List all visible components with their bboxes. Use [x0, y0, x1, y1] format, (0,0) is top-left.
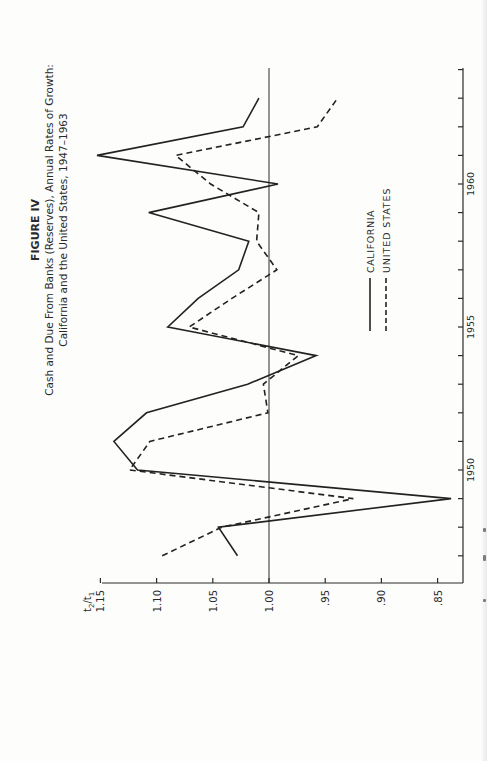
legend-united-states-label: UNITED STATES	[381, 188, 392, 273]
year-axis-ticks: 195019551960	[458, 70, 476, 556]
year-tick-label: 1955	[465, 315, 476, 339]
year-tick-label: 1950	[465, 458, 476, 482]
value-tick-label: 1.10	[152, 590, 163, 612]
california-series-line	[97, 98, 451, 556]
value-tick-label: .90	[376, 590, 387, 606]
value-tick-label: 1.15	[95, 590, 106, 612]
value-tick-label: .85	[433, 590, 444, 606]
figure-label: FIGURE IV	[29, 199, 42, 261]
svg-text:t2/t1: t2/t1	[82, 592, 96, 612]
legend-california-label: CALIFORNIA	[365, 210, 376, 273]
value-tick-label: 1.00	[264, 590, 275, 612]
axes	[102, 68, 463, 583]
value-tick-label: .95	[320, 590, 331, 606]
legend: CALIFORNIA UNITED STATES	[365, 188, 392, 331]
figure-title-line1: Cash and Due From Banks (Reserves), Annu…	[43, 64, 55, 396]
year-tick-label: 1960	[465, 172, 476, 196]
title-block: FIGURE IV Cash and Due From Banks (Reser…	[29, 64, 69, 396]
value-axis-unit-label: t2/t1	[82, 592, 96, 612]
chart: FIGURE IV Cash and Due From Banks (Reser…	[0, 0, 487, 761]
figure-title-line2: California and the United States, 1947–1…	[57, 113, 69, 346]
value-tick-label: 1.05	[208, 590, 219, 612]
